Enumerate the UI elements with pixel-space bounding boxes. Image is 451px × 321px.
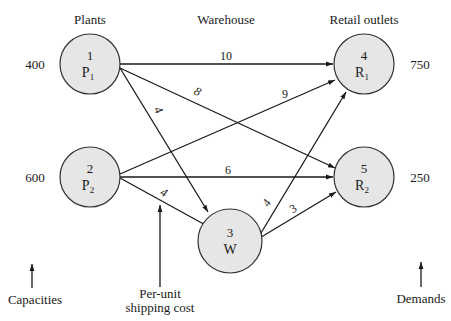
cost-label-2-3: 4	[158, 185, 170, 200]
cost-label-1-5: 8	[192, 84, 203, 99]
plants-header: Plants	[74, 12, 106, 27]
node-circle	[60, 147, 120, 207]
node-r1: 4 R1	[334, 34, 394, 94]
node-number: 2	[87, 161, 94, 176]
node-p2: 2 P2	[60, 147, 120, 207]
shipping-cost-label-line1: Per-unit	[139, 286, 181, 301]
edge-3-4	[258, 92, 346, 238]
node-number: 5	[361, 161, 368, 176]
cost-label-1-3: 4	[151, 104, 166, 116]
demand-r2: 250	[410, 170, 430, 185]
node-label: W	[223, 242, 237, 257]
cost-label-3-4: 4	[259, 197, 274, 209]
cost-label-2-5: 6	[225, 163, 231, 177]
node-circle	[334, 147, 394, 207]
edge-costs: 10 8 4 9 6 4 4 3	[151, 49, 299, 216]
node-number: 4	[361, 48, 368, 63]
edge-1-5	[120, 68, 335, 168]
node-warehouse: 3 W	[198, 209, 262, 273]
edge-2-4	[120, 80, 335, 174]
warehouse-header: Warehouse	[197, 12, 255, 27]
cost-label-1-4: 10	[220, 49, 232, 63]
capacity-p2: 600	[25, 170, 45, 185]
node-p1: 1 P1	[60, 34, 120, 94]
shipping-cost-label-line2: shipping cost	[126, 300, 195, 315]
node-r2: 5 R2	[334, 147, 394, 207]
cost-label-3-5: 3	[287, 201, 299, 216]
node-circle	[334, 34, 394, 94]
demand-r1: 750	[410, 57, 430, 72]
capacities-label: Capacities	[8, 292, 62, 307]
transshipment-network-diagram: Plants Warehouse Retail outlets 10 8 4 9…	[0, 0, 451, 321]
node-number: 3	[227, 225, 234, 240]
node-circle	[60, 34, 120, 94]
cost-label-2-4: 9	[282, 87, 288, 101]
retail-outlets-header: Retail outlets	[330, 12, 399, 27]
capacity-p1: 400	[25, 57, 45, 72]
node-circle	[198, 209, 262, 273]
node-number: 1	[87, 48, 94, 63]
demands-label: Demands	[396, 291, 445, 306]
edge-3-5	[258, 192, 336, 239]
